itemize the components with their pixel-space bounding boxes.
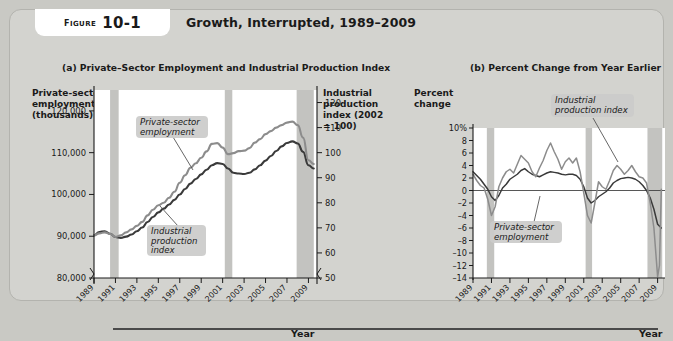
panel-b-x-tick-label-5: 1999 <box>546 283 567 304</box>
panel-b-y-tick-label-3: –8 <box>458 236 467 246</box>
panel-b-x-tick-label-6: 2001 <box>564 283 585 304</box>
panel-b-x-tick-label-10: 2009 <box>638 283 659 304</box>
callout-employment-line-0: Private-sector <box>494 222 554 232</box>
panel-b-y-tick-label-10: 6 <box>462 148 467 158</box>
panel-b-y-tick-label-0: –14 <box>452 273 467 283</box>
panel-b-y-tick-label-8: 2 <box>462 173 467 183</box>
figure-card: FIGURE 10-1 Growth, Interrupted, 1989–20… <box>9 9 664 301</box>
panel-b-plot-background <box>473 128 665 278</box>
panel-b-x-tick-label-8: 2005 <box>601 283 622 304</box>
panel-b-y-tick-label-5: –4 <box>458 211 467 221</box>
panel-b-y-tick-label-4: –6 <box>458 223 467 233</box>
panel-b-x-tick-label-4: 1997 <box>528 283 549 304</box>
panel-b-x-tick-label-3: 1995 <box>509 283 530 304</box>
panel-b-y-tick-label-2: –10 <box>452 248 467 258</box>
panel-b-y-tick-label-11: 8 <box>462 136 467 146</box>
panel-b-x-tick-label-1: 1991 <box>472 283 493 304</box>
panel-b-x-tick-label-9: 2007 <box>620 283 641 304</box>
panel-b-y-tick-label-7: 0 <box>462 186 467 196</box>
panel-b-y-tick-label-12: 10% <box>449 123 467 133</box>
callout-industrial-line-0: Industrial <box>555 95 596 105</box>
panel-b-x-tick-label-2: 1993 <box>491 283 512 304</box>
panel-b-y-tick-label-1: –12 <box>452 261 467 271</box>
panel-b-y-tick-label-6: –2 <box>458 198 467 208</box>
bottom-divider <box>113 328 658 330</box>
callout-industrial-line-1: production index <box>554 105 629 115</box>
callout-employment-line-1: employment <box>494 232 549 242</box>
panel-b-y-tick-label-9: 4 <box>462 161 467 171</box>
panel-b-chart: –14–12–10–8–6–4–20246810%198919911993199… <box>10 10 673 341</box>
panel-b-x-tick-label-7: 2003 <box>583 283 604 304</box>
panel-b-x-tick-label-0: 1989 <box>454 283 475 304</box>
